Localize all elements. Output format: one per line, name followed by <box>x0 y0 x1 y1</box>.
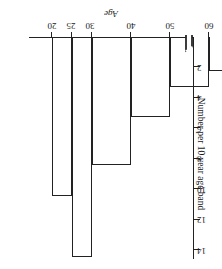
age-axis-title: Age <box>0 9 222 19</box>
bar-30-40 <box>92 37 131 165</box>
age-tick-label-60: 60 <box>198 21 220 31</box>
age-tick-30 <box>91 32 92 38</box>
bar-20-25 <box>52 37 72 197</box>
age-tick-50 <box>169 32 170 38</box>
age-tick-label-50: 50 <box>159 21 181 31</box>
value-tick-label-14: 14 <box>197 246 215 255</box>
age-tick-60 <box>208 32 209 38</box>
value-axis-title: Number per 10 year age band <box>196 69 206 239</box>
age-tick-label-30: 30 <box>79 21 101 31</box>
age-tick-25 <box>71 32 72 38</box>
age-tick-20 <box>51 32 52 38</box>
age-tick-40 <box>130 32 131 38</box>
bar-40-50 <box>131 37 170 117</box>
chart-plot-area: 20 25 30 40 50 60 70 2 4 6 8 10 12 14 Ag… <box>0 0 222 269</box>
age-tick-label-40: 40 <box>120 21 142 31</box>
chart-figure: 20 25 30 40 50 60 70 2 4 6 8 10 12 14 Ag… <box>0 0 222 269</box>
bar-25-30 <box>72 37 92 258</box>
